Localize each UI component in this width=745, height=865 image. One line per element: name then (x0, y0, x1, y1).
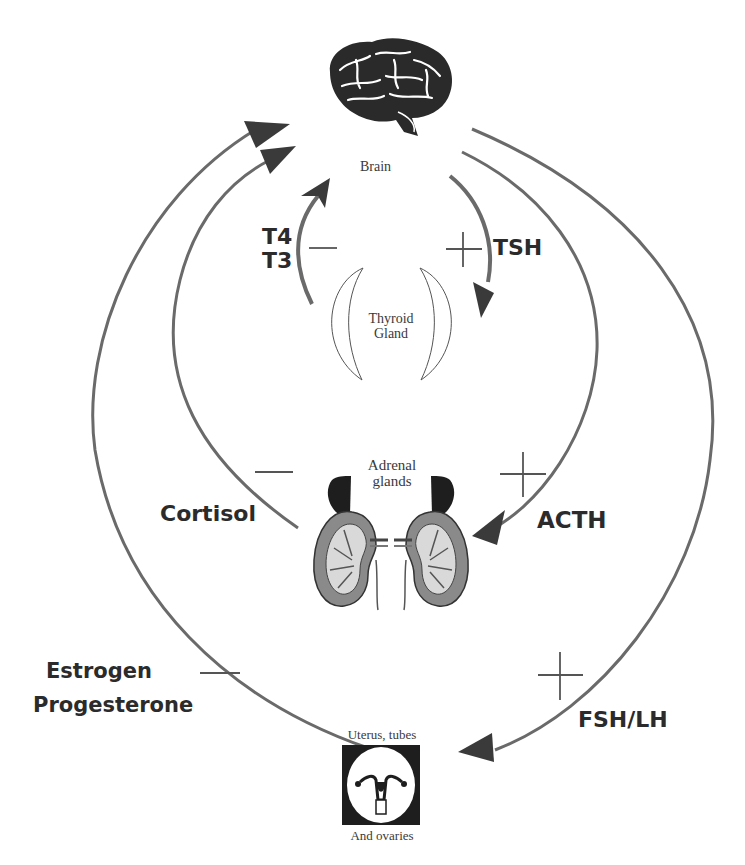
kidney-adrenal-icon (314, 476, 468, 610)
hormone-label-tsh: TSH (493, 237, 542, 259)
acth-arrow (462, 152, 597, 545)
t4-t3-arrow (298, 178, 330, 304)
uterus-icon (342, 745, 420, 825)
estrogen-progesterone-arrow (93, 121, 368, 748)
brain-icon (330, 38, 452, 136)
uterus-label-bottom: And ovaries (340, 829, 424, 843)
adrenal-label-line1: Adrenal (360, 458, 424, 474)
hormone-label-fsh-lh: FSH/LH (578, 709, 668, 731)
adrenal-label: Adrenal glands (360, 458, 424, 490)
hormone-label-progesterone: Progesterone (33, 695, 193, 716)
brain-label: Brain (360, 160, 391, 175)
fsh-lh-arrow (458, 129, 713, 762)
hormone-label-t3: T3 (262, 250, 292, 272)
tsh-arrow (450, 176, 494, 318)
uterus-label-top: Uterus, tubes (340, 728, 424, 742)
adrenal-label-line2: glands (360, 474, 424, 490)
thyroid-label-line1: Thyroid (360, 312, 422, 327)
hormone-label-estrogen: Estrogen (46, 661, 152, 682)
thyroid-label: Thyroid Gland (360, 312, 422, 341)
hormone-label-acth: ACTH (537, 509, 607, 532)
cortisol-arrow (173, 146, 298, 528)
hormone-label-cortisol: Cortisol (160, 503, 256, 525)
endocrine-feedback-diagram: Brain Thyroid Gland Adrenal glands Uteru… (0, 0, 745, 865)
thyroid-label-line2: Gland (360, 327, 422, 342)
hormone-label-t4: T4 (262, 226, 292, 248)
